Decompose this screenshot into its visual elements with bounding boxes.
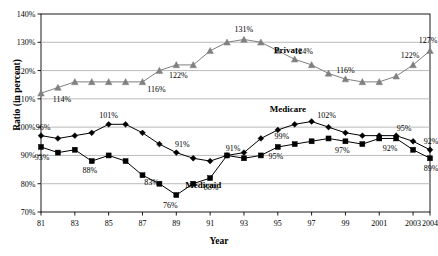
x-tick-label: 2003 [405, 219, 421, 228]
data-point-marker [275, 144, 280, 149]
x-tick-label: 97 [308, 219, 316, 228]
data-point-marker [39, 144, 44, 149]
y-axis-title: Ratio (in percent) [12, 45, 22, 145]
data-point-label: 95% [397, 124, 412, 133]
y-tick-label: 70% [21, 208, 36, 217]
data-point-label: 93% [35, 153, 50, 162]
y-tick-label: 80% [21, 180, 36, 189]
data-point-marker [72, 147, 77, 152]
x-tick-label: 87 [138, 219, 146, 228]
data-point-marker [360, 142, 365, 147]
x-tick-label: 85 [105, 219, 113, 228]
x-tick-label: 99 [341, 219, 349, 228]
data-point-label: 88% [82, 166, 97, 175]
y-tick-label: 140% [17, 10, 36, 19]
line-chart: 70%80%90%100%110%120%130%140%81838587899… [0, 0, 438, 256]
data-point-marker [140, 173, 145, 178]
x-tick-label: 95 [274, 219, 282, 228]
x-tick-label: 93 [240, 219, 248, 228]
data-point-marker [343, 139, 348, 144]
data-point-marker [411, 147, 416, 152]
data-point-marker [326, 136, 331, 141]
data-point-marker [241, 156, 246, 161]
x-tick-label: 2001 [371, 219, 387, 228]
chart-container: 70%80%90%100%110%120%130%140%81838587899… [0, 0, 438, 256]
data-point-marker [106, 153, 111, 158]
data-point-label: 116% [147, 85, 166, 94]
data-point-marker [123, 159, 128, 164]
series-label-medicaid: Medicaid [185, 180, 221, 190]
x-tick-label: 81 [37, 219, 45, 228]
data-point-label: 91% [226, 144, 241, 153]
data-point-label: 91% [175, 140, 190, 149]
data-point-marker [174, 193, 179, 198]
data-point-label: 97% [335, 146, 350, 155]
data-point-label: 127% [419, 36, 438, 45]
series-label-private: Private [274, 45, 302, 55]
data-point-label: 116% [336, 66, 355, 75]
data-point-label: 95% [268, 152, 283, 161]
data-point-marker [225, 153, 230, 158]
data-point-marker [394, 136, 399, 141]
x-tick-label: 89 [172, 219, 180, 228]
data-point-label: 122% [401, 51, 420, 60]
data-point-label: 89% [424, 164, 438, 173]
x-tick-label: 91 [206, 219, 214, 228]
x-axis-title: Year [0, 236, 438, 246]
data-point-label: 122% [169, 71, 188, 80]
data-point-marker [258, 153, 263, 158]
data-point-label: 83% [144, 178, 159, 187]
data-point-label: 92% [383, 144, 398, 153]
data-point-label: 102% [317, 111, 336, 120]
data-point-marker [292, 142, 297, 147]
data-point-marker [89, 159, 94, 164]
data-point-label: 99% [274, 132, 289, 141]
data-point-label: 101% [99, 111, 118, 120]
data-point-marker [55, 150, 60, 155]
y-tick-label: 90% [21, 151, 36, 160]
data-point-marker [428, 156, 433, 161]
series-label-medicare: Medicare [270, 104, 306, 114]
data-point-marker [377, 136, 382, 141]
data-point-marker [309, 139, 314, 144]
data-point-label: 114% [53, 95, 72, 104]
x-tick-label: 2004 [422, 219, 438, 228]
x-tick-label: 83 [71, 219, 79, 228]
data-point-label: 92% [424, 137, 438, 146]
data-point-label: 76% [163, 201, 178, 210]
data-point-label: 131% [235, 25, 254, 34]
data-point-label: 96% [36, 123, 51, 132]
